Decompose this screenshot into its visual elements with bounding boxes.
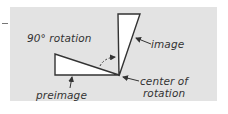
preimage-triangle <box>55 54 119 75</box>
preimage-label: preimage <box>36 89 87 101</box>
rotation-arc-arrow <box>100 57 115 66</box>
center-of-rotation-label: center of rotation <box>140 75 188 99</box>
rotation-diagram <box>0 0 228 114</box>
center-label-line1: center of <box>140 75 188 87</box>
preimage-pointer-arrow <box>70 77 72 88</box>
center-pointer-arrow <box>123 77 139 81</box>
image-triangle <box>118 14 140 76</box>
center-label-line2: rotation <box>140 87 188 99</box>
rotation-label: 90° rotation <box>27 32 92 44</box>
image-label: image <box>151 38 184 50</box>
image-pointer-arrow <box>136 38 151 44</box>
